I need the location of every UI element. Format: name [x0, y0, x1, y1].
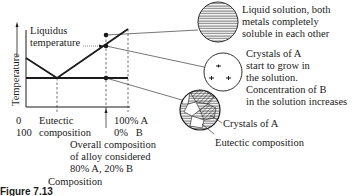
eutectic-label-2: composition — [39, 127, 91, 138]
liquidus-label-2: temperature — [30, 37, 80, 48]
alloy-label-3: 80% A, 20% B — [70, 163, 133, 174]
x-right-bottom: 0% B — [114, 127, 143, 138]
x-left-bottom: 100 — [16, 127, 32, 138]
alloy-label-1: Overall composition — [70, 139, 156, 150]
microstructure-liquid-icon — [198, 2, 238, 42]
circle2-label-1: Crystals of A — [246, 48, 301, 59]
circle3-label-eutectic: Eutectic composition — [215, 137, 304, 148]
circle1-label-1: Liquid solution, both — [242, 4, 330, 15]
circle2-label-2: start to grow in — [246, 60, 310, 71]
eutectic-label-1: Eutectic — [39, 115, 73, 126]
liquidus-label-1: Liquidus — [30, 25, 67, 36]
circle3-label-crystals: Crystals of A — [223, 118, 278, 129]
microstructure-crystals-start-icon — [204, 53, 242, 91]
circle2-label-4: Concentration of B — [246, 84, 326, 95]
x-left-top: 0 — [16, 115, 21, 126]
circle1-label-2: metals completely — [242, 16, 319, 27]
alloy-label-2: of alloy considered — [70, 151, 150, 162]
microstructure-solid-icon — [178, 88, 222, 134]
x-axis-label: Composition — [48, 176, 102, 187]
x-right-top: 100% A — [114, 115, 148, 126]
figure-caption: Figure 7.13 — [0, 186, 53, 196]
y-axis-label: Temperature — [10, 53, 21, 106]
circle2-label-5: in the solution increases — [246, 96, 347, 107]
circle2-label-3: the solution. — [246, 72, 298, 83]
circle1-label-3: soluble in each other — [242, 28, 329, 39]
leader-lines — [106, 30, 204, 100]
alloy-arrow — [105, 108, 108, 128]
